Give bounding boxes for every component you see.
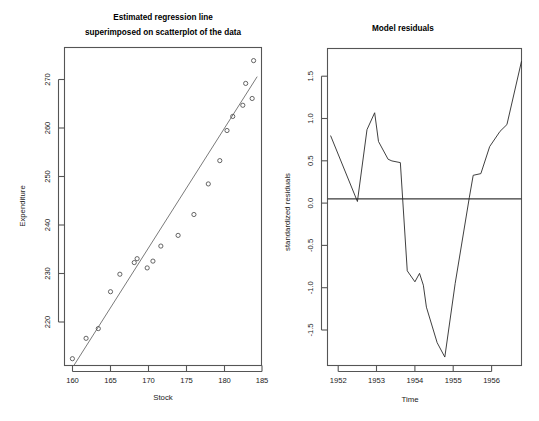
scatter-points-group — [70, 59, 255, 361]
x-tick-label: 175 — [180, 376, 193, 385]
y-tick-label: -1.5 — [306, 323, 315, 336]
x-axis-tick-labels: 1952 1953 1954 1955 1956 — [330, 376, 500, 385]
fit-line-segment — [74, 77, 257, 366]
chart-title: Model residuals — [372, 24, 434, 33]
x-tick-label: 1952 — [330, 376, 347, 385]
figure-canvas: Estimated regression line superimposed o… — [0, 0, 539, 421]
scatter-point — [244, 81, 248, 85]
x-tick-label: 1956 — [483, 376, 500, 385]
regression-fit-line — [74, 77, 257, 366]
y-tick-label: 260 — [43, 122, 52, 135]
panel-regression-scatter: Estimated regression line superimposed o… — [0, 0, 270, 421]
y-tick-label: 220 — [43, 316, 52, 329]
scatter-point — [118, 272, 122, 276]
y-axis-tick-labels: -1.5 -1.0 -0.5 0.0 0.5 1.0 1.5 — [306, 71, 315, 337]
x-axis-title: Stock — [153, 393, 173, 402]
x-axis-ticks — [338, 366, 491, 372]
y-axis-title: Expenditure — [18, 185, 27, 227]
scatter-point — [159, 244, 163, 248]
y-tick-label: 0.0 — [306, 198, 315, 209]
scatter-point — [192, 212, 196, 216]
y-axis-title: standardized residuals — [283, 173, 292, 251]
x-axis-ticks — [73, 366, 263, 372]
scatter-point — [251, 59, 255, 63]
plot-frame — [65, 48, 262, 366]
y-tick-label: 230 — [43, 267, 52, 280]
y-axis-ticks — [59, 80, 65, 323]
plot-frame — [328, 49, 522, 366]
x-tick-label: 180 — [218, 376, 231, 385]
scatter-point — [218, 159, 222, 163]
y-tick-label: 270 — [43, 73, 52, 86]
panel-model-residuals: Model residuals -1.5 -1.0 -0.5 0.0 0.5 1… — [270, 0, 539, 421]
scatter-point — [250, 96, 254, 100]
y-axis-tick-labels: 220 230 240 250 260 270 — [43, 73, 52, 328]
scatter-point — [108, 290, 112, 294]
x-tick-label: 185 — [256, 376, 269, 385]
scatter-point — [225, 128, 229, 132]
scatter-point — [176, 233, 180, 237]
y-tick-label: 1.5 — [306, 71, 315, 82]
x-tick-label: 170 — [142, 376, 155, 385]
scatter-point — [151, 259, 155, 263]
x-tick-label: 1955 — [445, 376, 462, 385]
y-tick-label: 0.5 — [306, 156, 315, 167]
x-tick-label: 1954 — [406, 376, 423, 385]
x-tick-label: 1953 — [368, 376, 385, 385]
y-tick-label: -0.5 — [306, 239, 315, 252]
scatter-point — [206, 182, 210, 186]
scatter-point — [132, 260, 136, 264]
model-residuals-svg: Model residuals -1.5 -1.0 -0.5 0.0 0.5 1… — [270, 0, 539, 421]
scatter-point — [241, 103, 245, 107]
y-tick-label: 250 — [43, 170, 52, 183]
x-axis-tick-labels: 160 165 170 175 180 185 — [66, 376, 268, 385]
chart-title-line2: superimposed on scatterplot of the data — [85, 28, 241, 37]
y-axis-ticks — [322, 76, 328, 330]
scatter-point — [135, 257, 139, 261]
scatter-point — [84, 336, 88, 340]
y-tick-label: -1.0 — [306, 281, 315, 294]
residual-series-line — [331, 61, 522, 357]
x-axis-title: Time — [401, 395, 418, 404]
x-tick-label: 165 — [104, 376, 117, 385]
scatter-point — [70, 357, 74, 361]
residual-polyline — [331, 61, 522, 357]
y-tick-label: 240 — [43, 219, 52, 232]
y-tick-label: 1.0 — [306, 113, 315, 124]
chart-title-line1: Estimated regression line — [113, 13, 213, 22]
x-tick-label: 160 — [66, 376, 79, 385]
regression-scatter-svg: Estimated regression line superimposed o… — [0, 0, 270, 421]
scatter-point — [145, 266, 149, 270]
